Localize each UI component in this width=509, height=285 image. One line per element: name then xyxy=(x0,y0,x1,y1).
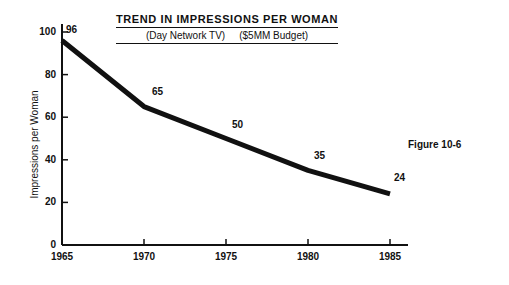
figure-caption: Figure 10-6 xyxy=(408,139,461,150)
x-tick-label: 1975 xyxy=(206,251,246,262)
y-tick-label: 100 xyxy=(30,26,56,37)
x-tick-label: 1970 xyxy=(124,251,164,262)
y-tick-label: 40 xyxy=(30,154,56,165)
trend-line xyxy=(62,41,390,194)
data-point-label: 96 xyxy=(66,24,77,35)
y-tick-label: 20 xyxy=(30,196,56,207)
data-point-label: 35 xyxy=(314,150,325,161)
data-point-label: 24 xyxy=(394,172,405,183)
x-tick-label: 1980 xyxy=(288,251,328,262)
data-point-label: 65 xyxy=(152,86,163,97)
y-tick-label: 60 xyxy=(30,111,56,122)
y-tick-label: 80 xyxy=(30,69,56,80)
x-tick-label: 1985 xyxy=(370,251,410,262)
y-tick-label: 0 xyxy=(30,239,56,250)
figure-root: TREND IN IMPRESSIONS PER WOMAN (Day Netw… xyxy=(0,0,509,285)
data-point-label: 50 xyxy=(232,119,243,130)
axes-group xyxy=(62,24,408,245)
x-tick-label: 1965 xyxy=(42,251,82,262)
